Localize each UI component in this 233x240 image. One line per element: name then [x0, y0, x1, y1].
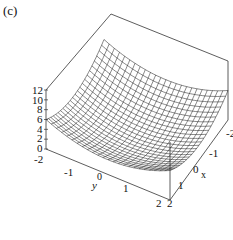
- y-tick-m1: -1: [64, 167, 73, 178]
- x-tick-m2: -2: [226, 128, 233, 139]
- x-tick-2: 2: [167, 198, 173, 209]
- y-tick-m2: -2: [34, 154, 43, 165]
- y-tick-1: 1: [123, 183, 129, 194]
- y-tick-0: 0: [97, 171, 102, 182]
- x-tick-1: 1: [178, 180, 184, 191]
- x-tick-0: 0: [193, 164, 199, 175]
- y-axis-label: y: [92, 180, 97, 191]
- surface-mesh: [46, 40, 228, 171]
- y-tick-2: 2: [156, 198, 162, 209]
- x-tick-m1: -1: [209, 148, 218, 159]
- x-axis-label: x: [201, 169, 206, 180]
